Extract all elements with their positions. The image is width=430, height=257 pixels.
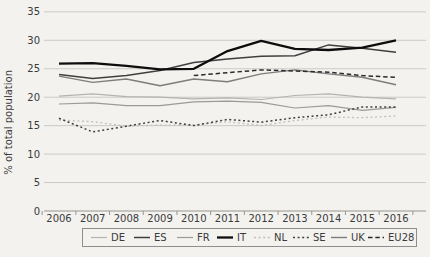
y-tick-label: 15 — [27, 120, 40, 131]
series-line-DE — [59, 94, 396, 100]
x-tick-label: 2014 — [316, 213, 341, 224]
y-tick-label: 5 — [34, 177, 40, 188]
y-tick-label: 30 — [27, 35, 40, 46]
series-line-NL — [59, 116, 396, 126]
x-tick-label: 2015 — [350, 213, 375, 224]
legend-label-ES: ES — [154, 232, 167, 243]
legend-label-NL: NL — [274, 232, 287, 243]
legend-label-EU28: EU28 — [388, 232, 414, 243]
x-tick-label: 2009 — [147, 213, 172, 224]
y-tick-label: 20 — [27, 92, 40, 103]
series-line-IT — [59, 40, 396, 69]
x-tick-label: 2016 — [383, 213, 408, 224]
y-tick-label: 0 — [34, 206, 40, 217]
legend-label-IT: IT — [237, 232, 247, 243]
x-tick-label: 2011 — [215, 213, 240, 224]
legend-label-SE: SE — [313, 232, 326, 243]
y-axis-title-text: % of total population — [3, 70, 14, 175]
x-tick-label: 2010 — [181, 213, 206, 224]
series-line-FR — [59, 101, 396, 110]
legend-label-FR: FR — [197, 232, 210, 243]
legend-box — [83, 229, 417, 247]
chart-svg: 0510152025303520062007200820092010201120… — [0, 0, 430, 257]
y-tick-label: 25 — [27, 63, 40, 74]
series-line-UK — [59, 70, 396, 86]
y-tick-label: 35 — [27, 6, 40, 17]
x-tick-label: 2008 — [114, 213, 139, 224]
x-tick-label: 2006 — [46, 213, 71, 224]
x-tick-label: 2013 — [282, 213, 307, 224]
y-axis-title: % of total population — [0, 52, 16, 192]
series-line-SE — [59, 107, 396, 132]
x-tick-label: 2012 — [248, 213, 273, 224]
legend-label-DE: DE — [111, 232, 125, 243]
x-tick-label: 2007 — [80, 213, 105, 224]
y-tick-label: 10 — [27, 149, 40, 160]
series-line-EU28 — [194, 70, 396, 77]
legend-label-UK: UK — [351, 232, 365, 243]
line-chart-figure: 0510152025303520062007200820092010201120… — [0, 0, 430, 257]
